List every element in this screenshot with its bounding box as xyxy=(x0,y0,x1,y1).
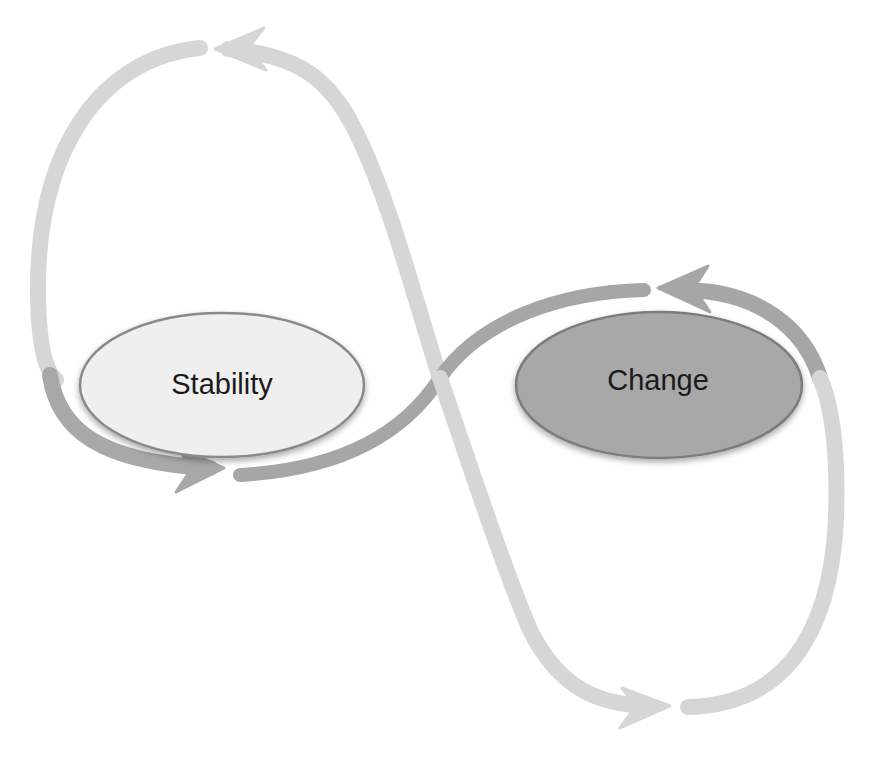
change-label: Change xyxy=(607,364,709,397)
stability-label: Stability xyxy=(171,368,273,401)
stability-change-diagram xyxy=(0,0,879,758)
